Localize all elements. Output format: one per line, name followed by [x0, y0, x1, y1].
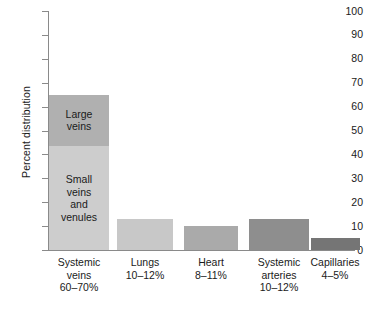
bar-segment — [117, 219, 173, 250]
plot-area: SmallveinsandvenulesLargeveins — [49, 11, 355, 250]
x-axis-category-label-line: 60–70% — [24, 281, 134, 294]
x-axis-category-label-line: 4–5% — [280, 269, 368, 282]
y-axis-title: Percent distribution — [20, 52, 32, 212]
x-axis-category-label: Capillaries4–5% — [280, 256, 368, 281]
x-axis-line — [48, 250, 355, 251]
bar-segment — [184, 226, 238, 250]
bar-segment: Largeveins — [49, 95, 109, 146]
bar-segment-label-line: Large — [49, 108, 109, 121]
bar — [249, 219, 309, 250]
bar-segment-label-line: venules — [49, 211, 109, 224]
bar-segment-label: Largeveins — [49, 108, 109, 133]
bar-segment — [311, 238, 360, 250]
bar-segment-label: Smallveinsandvenules — [49, 173, 109, 223]
bar — [117, 219, 173, 250]
bar-segment-label-line: veins — [49, 186, 109, 199]
bar-segment: Smallveinsandvenules — [49, 146, 109, 250]
bar-segment — [249, 219, 309, 250]
bar-segment-label-line: veins — [49, 120, 109, 133]
bar-segment-label-line: Small — [49, 173, 109, 186]
x-axis-category-label-line: 10–12% — [224, 281, 334, 294]
x-axis-category-label-line: Capillaries — [280, 256, 368, 269]
bar — [184, 226, 238, 250]
bar: SmallveinsandvenulesLargeveins — [49, 95, 109, 250]
bar — [311, 238, 360, 250]
bar-segment-label-line: and — [49, 198, 109, 211]
